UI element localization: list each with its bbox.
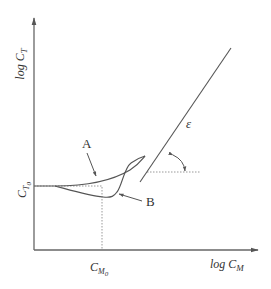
svg-text:log CT: log CT: [13, 47, 29, 79]
y-axis-label: log CT: [13, 47, 29, 79]
x-tick-label-cm0: CM0: [90, 260, 109, 278]
y-tick-label-ct0: CT0: [15, 182, 33, 198]
diagram: A B ε log CT CT0 CM0 log CM: [0, 0, 271, 289]
asymptote-line: [140, 48, 231, 182]
curve-b-label: B: [146, 194, 155, 209]
x-axis-label: log CM: [210, 257, 244, 273]
angle-arc: [173, 155, 185, 171]
curve-b: [55, 156, 145, 197]
angle-epsilon-label: ε: [186, 116, 192, 131]
svg-text:CT0: CT0: [15, 182, 33, 198]
curve-a-label: A: [82, 136, 92, 151]
curve-b-pointer-arrow: [119, 194, 142, 201]
curve-a-pointer-arrow: [87, 153, 96, 176]
